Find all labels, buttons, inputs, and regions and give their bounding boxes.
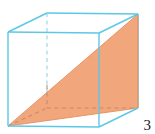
edge-depth-top-left	[8, 13, 47, 32]
page-number: 3	[144, 118, 152, 133]
cube-diagram	[0, 0, 155, 134]
edge-front-bottom	[8, 126, 99, 127]
edge-back-top	[47, 13, 138, 14]
edge-front-top	[8, 32, 99, 33]
cube-figure: 3	[0, 0, 155, 134]
cross-section-triangle	[8, 14, 138, 126]
